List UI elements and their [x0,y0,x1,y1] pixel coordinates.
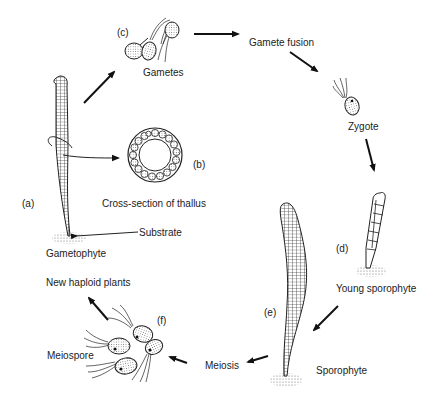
label-meiosis: Meiosis [205,360,239,372]
meiospores-illustration [84,305,165,382]
stage-tag-b: (b) [193,159,205,171]
arrow-to-gametes [84,72,114,103]
gametes-illustration [125,18,179,62]
stage-tag-a: (a) [22,198,34,210]
label-gametophyte: Gametophyte [46,248,106,260]
young-sporophyte-illustration [356,192,386,277]
label-sporophyte: Sporophyte [316,365,367,377]
label-meiospore: Meiospore [47,350,94,362]
arrow-to-sporophyte [314,306,338,330]
arrow-to-new-haploid-plants [89,298,108,320]
cross-section-illustration [128,128,182,182]
label-new-haploid-plants: New haploid plants [46,277,131,289]
gametophyte-illustration [48,76,138,244]
label-substrate: Substrate [139,227,182,239]
life-cycle-diagram: (c) Gametes Gamete fusion Zygote (b) Cro… [0,0,431,408]
arrow-to-meiosis [248,356,268,362]
arrow-to-zygote [290,52,317,71]
stage-tag-c: (c) [117,27,129,39]
stage-tag-e: (e) [264,307,276,319]
label-zygote: Zygote [348,121,379,133]
diagram-artwork [0,0,431,408]
zygote-illustration [333,78,361,117]
arrow-to-young-sporophyte [366,139,374,170]
label-gamete-fusion: Gamete fusion [249,37,314,49]
stage-tag-f: (f) [157,315,166,327]
label-cross-section: Cross-section of thallus [102,198,206,210]
sporophyte-illustration [270,203,307,387]
label-young-sporophyte: Young sporophyte [336,283,416,295]
label-gametes: Gametes [143,67,184,79]
stage-tag-d: (d) [336,243,348,255]
arrow-to-meiospore [170,357,187,363]
